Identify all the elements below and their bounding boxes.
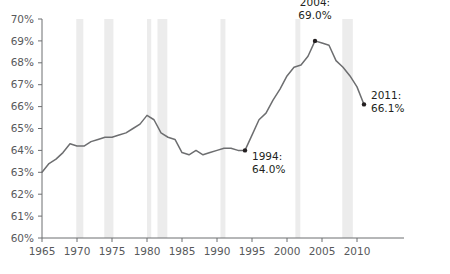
data-line: [42, 41, 364, 172]
x-axis-tick-label: 1995: [239, 245, 266, 257]
y-axis-ticks-group: 60%61%62%63%64%65%66%67%68%69%70%: [11, 13, 42, 244]
annotation-2004: 2004:69.0%: [298, 0, 331, 21]
chart-canvas: 60%61%62%63%64%65%66%67%68%69%70% 196519…: [0, 0, 450, 274]
y-axis-tick-label: 65%: [11, 122, 34, 134]
homeownership-rate-chart: 60%61%62%63%64%65%66%67%68%69%70% 196519…: [0, 0, 450, 274]
x-axis-tick-label: 1975: [99, 245, 126, 257]
annotation-marker: [243, 148, 247, 152]
x-axis-tick-label: 2010: [344, 245, 371, 257]
y-axis-tick-label: 70%: [11, 13, 34, 25]
annotation-1994-line1: 1994:: [252, 150, 282, 162]
y-axis-tick-label: 64%: [11, 144, 34, 156]
y-axis-tick-label: 68%: [11, 56, 34, 68]
x-axis-ticks-group: 1965197019751980198519901995200020052010: [29, 238, 371, 257]
recession-band: [342, 19, 353, 238]
x-axis-tick-label: 1985: [169, 245, 196, 257]
y-axis-tick-label: 69%: [11, 35, 34, 47]
annotation-2004-line2: 69.0%: [298, 9, 331, 21]
x-axis-tick-label: 1965: [29, 245, 56, 257]
annotation-2011-line2: 66.1%: [371, 102, 404, 114]
annotation-1994-line2: 64.0%: [252, 163, 285, 175]
annotation-1994: 1994:64.0%: [252, 150, 285, 175]
recession-band: [147, 19, 151, 238]
x-axis-tick-label: 1970: [64, 245, 91, 257]
annotations-group: 1994:64.0%2004:69.0%2011:66.1%: [243, 0, 405, 175]
recession-band: [104, 19, 113, 238]
x-axis-tick-label: 2005: [309, 245, 336, 257]
recession-band: [76, 19, 83, 238]
recession-bands-group: [76, 19, 353, 238]
recession-band: [295, 19, 300, 238]
annotation-marker: [313, 39, 317, 43]
y-axis-tick-label: 60%: [11, 232, 34, 244]
x-axis-tick-label: 2000: [274, 245, 301, 257]
y-axis-tick-label: 67%: [11, 78, 34, 90]
y-axis-tick-label: 62%: [11, 188, 34, 200]
annotation-2004-line1: 2004:: [300, 0, 330, 8]
recession-band: [221, 19, 226, 238]
annotation-marker: [362, 102, 366, 106]
x-axis-tick-label: 1980: [134, 245, 161, 257]
y-axis-tick-label: 66%: [11, 100, 34, 112]
y-axis-tick-label: 61%: [11, 210, 34, 222]
data-line-group: [42, 41, 364, 172]
annotation-2011-line1: 2011:: [371, 89, 401, 101]
annotation-2011: 2011:66.1%: [371, 89, 404, 114]
y-axis-tick-label: 63%: [11, 166, 34, 178]
x-axis-tick-label: 1990: [204, 245, 231, 257]
